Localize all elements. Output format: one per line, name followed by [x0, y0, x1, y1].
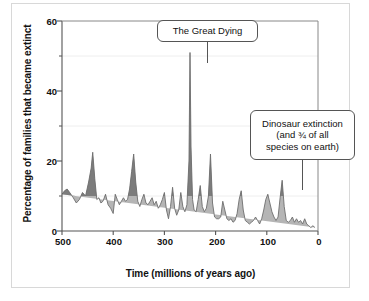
- extinction-rate-chart: Percentage of families that became extin…: [0, 0, 369, 301]
- annotation-dinosaur-line-3: species on earth): [266, 141, 339, 153]
- annotation-great-dying: The Great Dying: [157, 20, 258, 42]
- leader-line-dinosaur: [302, 160, 303, 190]
- annotation-great-dying-text: The Great Dying: [173, 25, 243, 37]
- annotation-dinosaur-line-2: (and ¾ of all: [276, 129, 328, 141]
- annotation-dinosaur-line-1: Dinosaur extinction: [262, 118, 343, 130]
- annotation-dinosaur-extinction: Dinosaur extinction (and ¾ of all specie…: [250, 110, 355, 160]
- leader-line-great-dying: [207, 42, 208, 63]
